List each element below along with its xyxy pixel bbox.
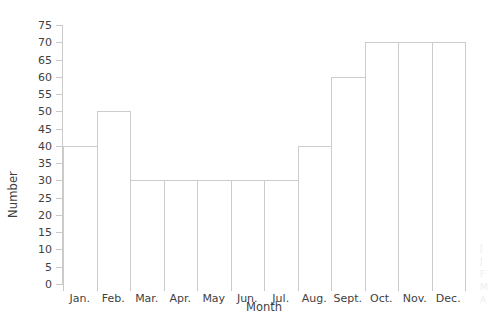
y-tick-mark (56, 267, 62, 268)
edge-mark: F (480, 268, 490, 281)
bar[interactable] (398, 42, 433, 285)
edge-mark: A (480, 294, 490, 307)
y-tick-label: 25 (0, 192, 52, 203)
y-tick-mark (56, 215, 62, 216)
bar[interactable] (365, 42, 400, 285)
y-tick-mark (56, 249, 62, 250)
y-tick-label: 65 (0, 54, 52, 65)
y-tick-mark (56, 232, 62, 233)
bar[interactable] (130, 180, 165, 285)
bar[interactable] (331, 77, 366, 285)
x-tick-mark (63, 285, 64, 291)
edge-artifact-text: JJFMA (480, 242, 490, 307)
x-axis-title: Month (63, 300, 465, 314)
y-tick-mark (56, 42, 62, 43)
bar[interactable] (164, 180, 199, 285)
y-tick-label: 15 (0, 227, 52, 238)
y-tick-mark (56, 60, 62, 61)
x-tick-mark (97, 285, 98, 291)
bar-chart: Number 051015202530354045505560657075 Ja… (0, 0, 492, 333)
bar[interactable] (432, 42, 467, 285)
bar[interactable] (63, 146, 98, 285)
x-tick-mark (298, 285, 299, 291)
y-tick-mark (56, 77, 62, 78)
y-tick-mark (56, 129, 62, 130)
bar[interactable] (298, 146, 333, 285)
y-tick-mark (56, 111, 62, 112)
y-tick-label: 40 (0, 140, 52, 151)
y-tick-label: 5 (0, 261, 52, 272)
edge-mark: J (480, 242, 490, 255)
y-tick-mark (56, 146, 62, 147)
x-tick-mark (264, 285, 265, 291)
x-tick-mark (197, 285, 198, 291)
y-tick-label: 75 (0, 20, 52, 31)
edge-mark: M (480, 281, 490, 294)
y-tick-label: 45 (0, 123, 52, 134)
y-tick-label: 70 (0, 37, 52, 48)
bar[interactable] (97, 111, 132, 285)
x-tick-mark (130, 285, 131, 291)
bar[interactable] (197, 180, 232, 285)
x-tick-mark (398, 285, 399, 291)
y-tick-label: 10 (0, 244, 52, 255)
y-tick-label: 50 (0, 106, 52, 117)
y-tick-mark (56, 25, 62, 26)
y-tick-mark (56, 180, 62, 181)
x-tick-mark (331, 285, 332, 291)
y-tick-label: 20 (0, 209, 52, 220)
y-tick-label: 30 (0, 175, 52, 186)
y-tick-mark (56, 94, 62, 95)
x-tick-mark (231, 285, 232, 291)
x-tick-mark (365, 285, 366, 291)
y-tick-label: 60 (0, 71, 52, 82)
x-tick-mark (164, 285, 165, 291)
y-tick-label: 0 (0, 279, 52, 290)
edge-mark: J (480, 255, 490, 268)
y-tick-mark (56, 198, 62, 199)
bar[interactable] (264, 180, 299, 285)
y-tick-label: 55 (0, 89, 52, 100)
bar[interactable] (231, 180, 266, 285)
y-tick-mark (56, 284, 62, 285)
y-tick-label: 35 (0, 158, 52, 169)
y-tick-mark (56, 163, 62, 164)
x-tick-mark (432, 285, 433, 291)
x-tick-mark (465, 285, 466, 291)
